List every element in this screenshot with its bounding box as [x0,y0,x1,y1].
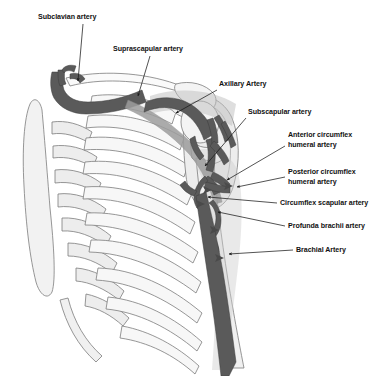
label-circumflex-scapular-artery: Circumflex scapular artery [280,199,368,209]
label-anterior-circumflex-humeral-artery: Anterior circumflex humeral artery [288,131,352,150]
label-suprascapular-artery: Suprascapular artery [113,45,183,55]
label-subclavian-artery: Subclavian artery [38,13,96,23]
label-axillary-artery: Axillary Artery [219,80,267,90]
label-profunda-brachii-artery: Profunda brachii artery [288,222,365,232]
anatomy-illustration [0,0,388,376]
label-posterior-circumflex-humeral-artery: Posterior circumflex humeral artery [288,168,356,187]
anatomy-figure: Subclavian artery Suprascapular artery A… [0,0,388,376]
label-subscapular-artery: Subscapular artery [248,108,311,118]
label-brachial-artery: Brachial Artery [296,246,346,256]
